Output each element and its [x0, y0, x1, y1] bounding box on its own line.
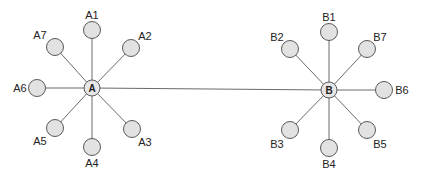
node-label-a7: A7	[33, 29, 46, 41]
node-label-b2: B2	[270, 31, 283, 43]
node-label-a4: A4	[85, 157, 98, 169]
hub-label-b: B	[325, 85, 332, 96]
node-label-b4: B4	[322, 158, 335, 170]
node-label-b7: B7	[373, 31, 386, 43]
node-label-a5: A5	[33, 135, 46, 147]
node-a2	[123, 40, 140, 57]
node-a1	[84, 22, 101, 39]
node-label-a1: A1	[85, 9, 98, 21]
node-a6	[29, 80, 46, 97]
node-label-b3: B3	[270, 138, 283, 150]
node-label-b1: B1	[322, 11, 335, 23]
node-label-a2: A2	[138, 30, 151, 42]
network-diagram: A1A2A3A4A5A6A7B1B2B3B4B5B6B7AB	[0, 0, 421, 177]
node-a5	[47, 120, 64, 137]
node-b4	[321, 140, 338, 157]
node-label-a6: A6	[13, 82, 26, 94]
node-b6	[376, 82, 393, 99]
node-label-a3: A3	[138, 136, 151, 148]
edge-A-B	[92, 88, 329, 90]
node-b5	[359, 122, 376, 139]
node-a7	[47, 39, 64, 56]
node-b2	[282, 41, 299, 58]
node-label-b5: B5	[373, 138, 386, 150]
hub-label-a: A	[88, 83, 95, 94]
node-b7	[359, 41, 376, 58]
node-b3	[282, 122, 299, 139]
node-a4	[84, 139, 101, 156]
node-a3	[124, 121, 141, 138]
node-b1	[321, 24, 338, 41]
node-label-b6: B6	[395, 84, 408, 96]
